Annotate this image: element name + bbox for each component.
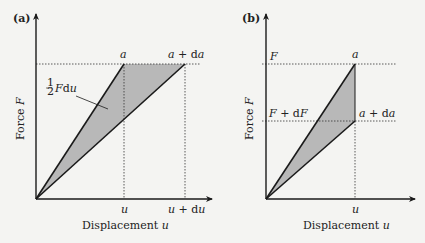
tick-u-b: u	[352, 203, 359, 216]
label-a-da-b: a + da	[359, 107, 395, 120]
tick-u-du: u + du	[168, 203, 205, 216]
label-F: F	[269, 50, 278, 63]
label-a-b: a	[352, 48, 359, 61]
x-axis-label-b: Displacement u	[303, 219, 390, 232]
label-a-da: a + da	[168, 48, 204, 61]
x-axis-label-a: Displacement u	[82, 219, 169, 232]
panel-b: (b) F a F + dF a + da u Displacement u F…	[242, 12, 415, 232]
label-F-dF: F + dF	[268, 107, 308, 120]
figure: (a) a a + da 1 2 Fdu u u + du Displaceme…	[0, 0, 425, 243]
panel-a-label: (a)	[13, 12, 31, 25]
y-axis-label-a: Force F	[14, 97, 27, 140]
svg-text:Fdu: Fdu	[54, 82, 77, 95]
annotation-half-F-du: 1 2 Fdu	[46, 76, 77, 98]
tick-u-a: u	[121, 203, 128, 216]
panel-b-label: (b)	[242, 12, 260, 25]
y-axis-label-b: Force F	[243, 97, 256, 140]
label-a: a	[120, 48, 127, 61]
panel-a: (a) a a + da 1 2 Fdu u u + du Displaceme…	[13, 12, 212, 232]
svg-text:2: 2	[47, 85, 54, 98]
